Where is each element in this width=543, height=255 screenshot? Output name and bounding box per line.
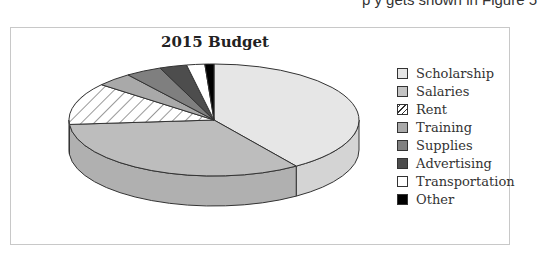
legend-swatch-rent bbox=[397, 104, 408, 115]
legend-label: Training bbox=[416, 120, 472, 135]
legend-item-other: Other bbox=[397, 190, 515, 208]
legend-label: Transportation bbox=[416, 174, 515, 189]
legend-item-training: Training bbox=[397, 118, 515, 136]
legend-label: Advertising bbox=[416, 156, 492, 171]
legend-label: Other bbox=[416, 192, 454, 207]
chart-legend: Scholarship Salaries Rent Training Suppl… bbox=[397, 64, 515, 208]
legend-label: Salaries bbox=[416, 84, 469, 99]
legend-swatch-training bbox=[397, 122, 408, 133]
legend-swatch-salaries bbox=[397, 86, 408, 97]
legend-swatch-transportation bbox=[397, 176, 408, 187]
legend-label: Rent bbox=[416, 102, 447, 117]
legend-swatch-scholarship bbox=[397, 68, 408, 79]
legend-label: Scholarship bbox=[416, 66, 494, 81]
legend-swatch-supplies bbox=[397, 140, 408, 151]
legend-label: Supplies bbox=[416, 138, 473, 153]
legend-swatch-advertising bbox=[397, 158, 408, 169]
legend-item-salaries: Salaries bbox=[397, 82, 515, 100]
legend-item-transportation: Transportation bbox=[397, 172, 515, 190]
legend-item-advertising: Advertising bbox=[397, 154, 515, 172]
legend-item-rent: Rent bbox=[397, 100, 515, 118]
pie-slices bbox=[69, 64, 359, 206]
legend-swatch-other bbox=[397, 194, 408, 205]
legend-item-scholarship: Scholarship bbox=[397, 64, 515, 82]
legend-item-supplies: Supplies bbox=[397, 136, 515, 154]
